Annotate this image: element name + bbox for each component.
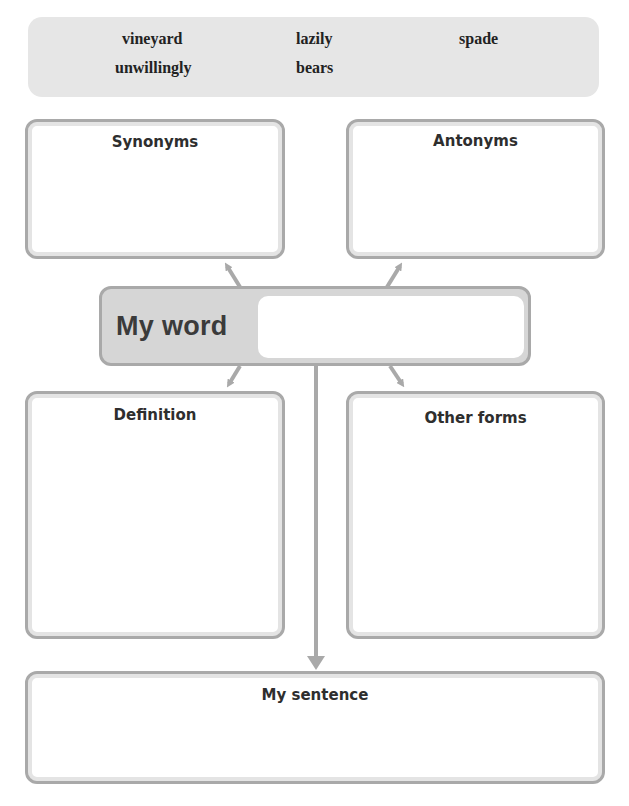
arrow-to-antonyms	[387, 266, 400, 287]
definition-title: Definition	[28, 406, 282, 424]
definition-box[interactable]: Definition	[25, 391, 285, 639]
arrow-to-other-forms	[390, 366, 402, 384]
my-sentence-title: My sentence	[28, 686, 602, 704]
my-word-input[interactable]	[258, 296, 524, 358]
arrowhead-down-icon	[307, 656, 325, 670]
my-word-label: My word	[116, 311, 228, 342]
synonyms-box[interactable]: Synonyms	[25, 119, 285, 259]
synonyms-title: Synonyms	[28, 133, 282, 151]
other-forms-title: Other forms	[349, 409, 602, 427]
my-sentence-box[interactable]: My sentence	[25, 671, 605, 784]
other-forms-box[interactable]: Other forms	[346, 391, 605, 639]
arrow-to-synonyms	[227, 266, 240, 287]
antonyms-box[interactable]: Antonyms	[346, 119, 605, 259]
arrow-to-definition	[229, 366, 240, 384]
antonyms-title: Antonyms	[349, 132, 602, 150]
my-word-box: My word	[99, 286, 531, 366]
